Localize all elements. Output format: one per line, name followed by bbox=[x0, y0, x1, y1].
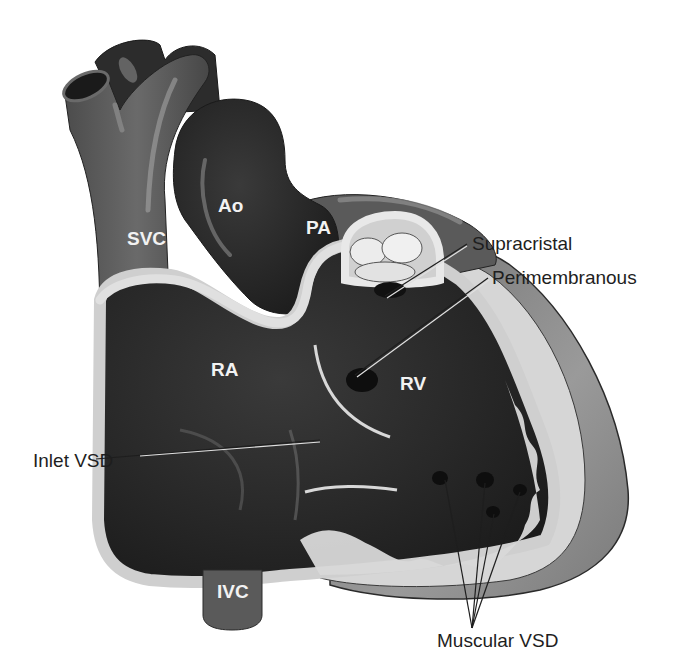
callout-supracristal: Supracristal bbox=[472, 234, 572, 253]
label-pa: PA bbox=[306, 217, 331, 238]
pulmonary-valve bbox=[345, 215, 440, 298]
label-ao: Ao bbox=[218, 195, 243, 216]
label-ivc: IVC bbox=[217, 581, 249, 602]
label-rv: RV bbox=[400, 373, 426, 394]
callout-muscular-vsd: Muscular VSD bbox=[437, 631, 558, 650]
heart-diagram: SVC Ao PA RA RV IVC bbox=[0, 0, 677, 669]
label-ra: RA bbox=[211, 359, 239, 380]
callout-inlet-vsd: Inlet VSD bbox=[33, 451, 113, 470]
muscular-defect-4 bbox=[513, 484, 527, 496]
callout-perimembranous: Perimembranous bbox=[492, 268, 637, 287]
perimembranous-defect bbox=[346, 368, 378, 392]
label-svc: SVC bbox=[127, 228, 166, 249]
